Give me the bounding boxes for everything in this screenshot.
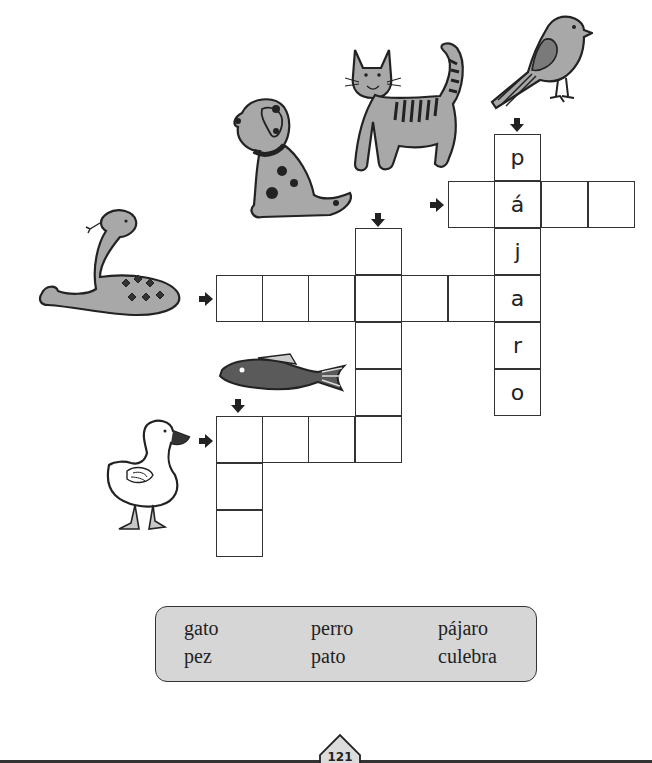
page-number: 121 bbox=[318, 750, 362, 763]
arrow-right-icon bbox=[430, 198, 444, 212]
crossword-cell-gato-1[interactable] bbox=[448, 181, 495, 228]
crossword-cell-pez-2[interactable] bbox=[216, 463, 263, 510]
bird-icon bbox=[488, 10, 593, 110]
crossword-cell-perro-5[interactable] bbox=[355, 416, 402, 463]
crossword-cell-culebra-3[interactable] bbox=[308, 275, 355, 322]
word-pez: pez bbox=[184, 645, 212, 668]
crossword-cell-culebra-5[interactable] bbox=[401, 275, 448, 322]
crossword-cell-gato-4[interactable] bbox=[588, 181, 635, 228]
word-pajaro: pájaro bbox=[438, 617, 488, 640]
arrow-right-icon bbox=[199, 292, 213, 306]
crossword-cell-culebra-6[interactable] bbox=[448, 275, 495, 322]
crossword-cell-perro-1[interactable] bbox=[355, 228, 402, 275]
arrow-right-icon bbox=[199, 434, 213, 448]
crossword-cell-pajaro-4[interactable]: a bbox=[494, 275, 541, 322]
fish-icon bbox=[218, 350, 348, 398]
crossword-cell-gato-3[interactable] bbox=[541, 181, 588, 228]
crossword-cell-pajaro-2[interactable]: á bbox=[494, 181, 541, 228]
arrow-down-icon bbox=[510, 118, 524, 132]
crossword-cell-culebra-4[interactable] bbox=[355, 275, 402, 322]
snake-icon bbox=[38, 207, 198, 327]
crossword-cell-pato-2[interactable] bbox=[262, 416, 309, 463]
word-perro: perro bbox=[311, 617, 353, 640]
crossword-cell-perro-4[interactable] bbox=[355, 369, 402, 416]
dog-icon bbox=[232, 95, 372, 225]
crossword-cell-pajaro-5[interactable]: r bbox=[494, 322, 541, 369]
word-pato: pato bbox=[311, 645, 345, 668]
crossword-cell-culebra-2[interactable] bbox=[262, 275, 309, 322]
arrow-down-icon bbox=[231, 399, 245, 413]
crossword-cell-pato-1[interactable] bbox=[216, 416, 263, 463]
word-gato: gato bbox=[184, 617, 218, 640]
arrow-down-icon bbox=[371, 213, 385, 227]
duck-icon bbox=[105, 415, 195, 535]
crossword-cell-perro-3[interactable] bbox=[355, 322, 402, 369]
crossword-cell-pato-3[interactable] bbox=[308, 416, 355, 463]
word-culebra: culebra bbox=[438, 645, 497, 668]
crossword-cell-pajaro-3[interactable]: j bbox=[494, 228, 541, 275]
crossword-cell-pajaro-1[interactable]: p bbox=[494, 134, 541, 181]
crossword-cell-pez-3[interactable] bbox=[216, 510, 263, 557]
crossword-cell-pajaro-6[interactable]: o bbox=[494, 369, 541, 416]
crossword-cell-culebra-1[interactable] bbox=[216, 275, 263, 322]
word-bank: gato pez perro pato pájaro culebra bbox=[155, 606, 537, 682]
